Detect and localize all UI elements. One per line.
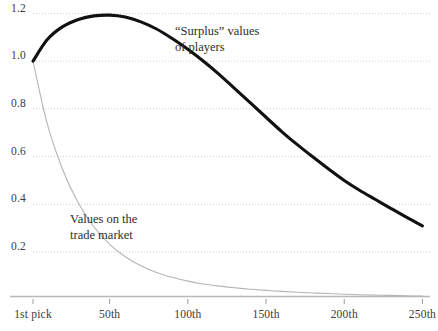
surplus-annotation: “Surplus” values of players (175, 24, 259, 55)
y-axis-tick-label: 1.0 (0, 49, 26, 61)
y-axis-tick-label: 0.4 (0, 192, 26, 204)
x-axis-tick-label: 50th (99, 308, 120, 321)
x-axis-tick-label: 150th (252, 308, 279, 321)
trade-market-annotation: Values on the trade market (70, 212, 137, 243)
x-axis-ticks (33, 299, 422, 304)
data-series (33, 15, 422, 296)
y-axis-tick-label: 0.8 (0, 97, 26, 109)
x-axis-tick-label: 200th (331, 308, 358, 321)
x-axis-tick-label: 100th (174, 308, 201, 321)
series-line (33, 61, 422, 296)
x-axis-tick-label: 250th (409, 308, 436, 321)
y-axis-tick-label: 0.6 (0, 145, 26, 157)
y-axis-tick-label: 0.2 (0, 240, 26, 252)
x-axis-tick-label: 1st pick (14, 308, 52, 321)
y-axis-tick-label: 1.2 (0, 2, 26, 14)
chart-container: 1.21.00.80.60.40.2 1st pick50th100th150t… (0, 0, 438, 331)
